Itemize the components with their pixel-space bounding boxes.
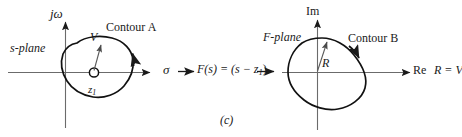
im-axis-label: Im xyxy=(306,5,319,17)
figure-conformal-mapping: jω s-plane V Contour A z1 σ F(s) = (s − … xyxy=(0,0,462,137)
zero-label-z1: z1 xyxy=(88,84,96,97)
mapping-expression: F(s) = (s − z1) xyxy=(197,63,267,77)
contour-b-path xyxy=(288,38,366,110)
figure-caption: (c) xyxy=(220,114,233,126)
f-plane-label: F-plane xyxy=(263,31,301,43)
mapping-expression-tail: ) xyxy=(263,62,267,76)
jomega-axis-label: jω xyxy=(50,7,63,20)
mapping-expression-main: F(s) = (s − z xyxy=(197,62,259,76)
zero-label-subscript: 1 xyxy=(92,88,96,97)
contour-a-label: Contour A xyxy=(106,21,156,33)
contour-a-path xyxy=(62,36,134,97)
sigma-axis-label: σ xyxy=(163,63,169,76)
vector-v-arrow xyxy=(94,45,101,71)
s-plane-label-text: s-plane xyxy=(10,41,45,55)
s-plane-label: s-plane xyxy=(10,42,45,54)
f-plane-label-text: F-plane xyxy=(263,30,301,44)
s-plane-axes xyxy=(8,22,150,128)
vector-v-label: V xyxy=(90,31,97,43)
vector-r-label: R xyxy=(322,57,329,69)
contour-b-label: Contour B xyxy=(348,32,398,44)
re-axis-label: Re xyxy=(413,64,426,76)
magnitude-relation-label: R = V xyxy=(434,64,462,76)
